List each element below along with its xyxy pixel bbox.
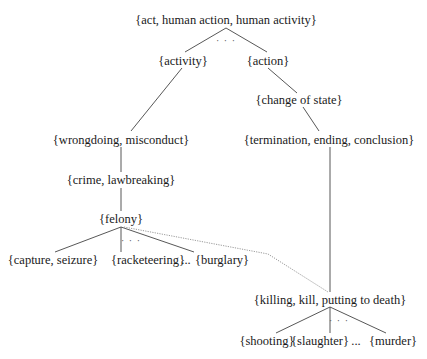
- node-termination: {termination, ending, conclusion}: [244, 134, 414, 147]
- taxonomy-diagram: {act, human action, human activity} · · …: [0, 0, 427, 359]
- edge-change-termination: [303, 107, 319, 131]
- node-capture: {capture, seizure}: [8, 254, 98, 267]
- edge-action-change: [268, 68, 297, 93]
- edge-killing-shooting: [276, 307, 330, 333]
- node-burglary: {burglary}: [195, 254, 249, 267]
- ellipsis-killing-children: · · ·: [329, 316, 349, 326]
- node-racketeering: {racketeering}: [111, 254, 185, 267]
- node-slaughter: {slaughter}: [291, 335, 349, 348]
- node-murder: {murder}: [369, 335, 417, 348]
- node-change-of-state: {change of state}: [256, 94, 343, 107]
- node-crime: {crime, lawbreaking}: [67, 174, 175, 187]
- node-action: {action}: [247, 55, 290, 68]
- node-wrongdoing: {wrongdoing, misconduct}: [53, 134, 189, 147]
- ellipsis-killing-row: ...: [351, 335, 360, 348]
- ellipsis-act-children: · · ·: [216, 36, 236, 46]
- node-killing: {killing, kill, putting to death}: [254, 294, 406, 307]
- node-felony: {felony}: [99, 213, 143, 226]
- edge-activity-wrongdoing: [131, 68, 182, 131]
- node-shooting: {shooting}: [239, 335, 294, 348]
- node-act: {act, human action, human activity}: [135, 14, 316, 27]
- node-activity: {activity}: [158, 55, 208, 68]
- edge-felony-capture: [55, 227, 121, 252]
- ellipsis-felony-children: · · ·: [121, 236, 141, 246]
- ellipsis-felony-row: ...: [181, 254, 190, 267]
